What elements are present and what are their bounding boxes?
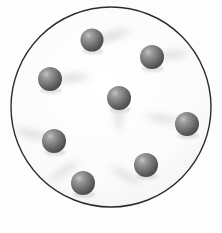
sphere-right bbox=[175, 112, 199, 139]
sphere-top bbox=[81, 29, 104, 55]
sphere-right-body bbox=[175, 112, 199, 136]
sphere-circle-figure bbox=[0, 0, 222, 233]
sphere-left-body bbox=[42, 129, 66, 153]
sphere-left bbox=[42, 129, 66, 156]
sphere-upper-right bbox=[140, 45, 164, 72]
sphere-lower-left bbox=[71, 171, 95, 198]
sphere-center bbox=[107, 86, 131, 113]
sphere-top-body bbox=[81, 29, 104, 52]
figure-canvas bbox=[0, 0, 222, 233]
sphere-lower-right-body bbox=[134, 153, 158, 177]
sphere-center-body bbox=[107, 86, 131, 110]
sphere-upper-right-body bbox=[140, 45, 164, 69]
sphere-lower-right bbox=[134, 153, 158, 180]
sphere-upper-left bbox=[38, 67, 62, 94]
sphere-upper-left-body bbox=[38, 67, 62, 91]
sphere-lower-left-body bbox=[71, 171, 95, 195]
